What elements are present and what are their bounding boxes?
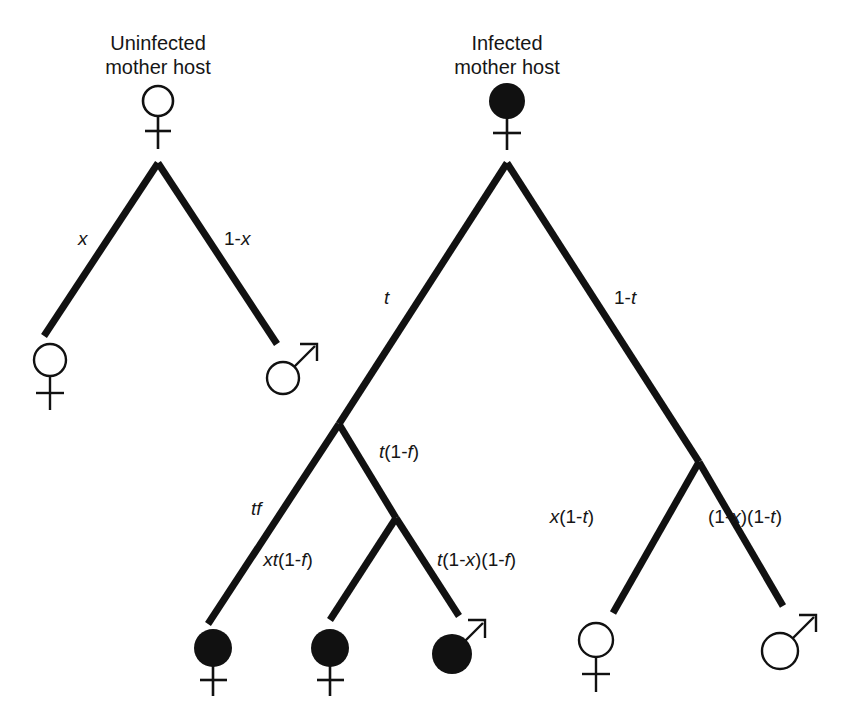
- label-prefix-1: 1-: [224, 228, 241, 249]
- label-seg-1: (1-: [708, 506, 731, 527]
- right-branch-t-one-minus-f: [339, 424, 396, 518]
- label-italic-t: t: [631, 287, 637, 308]
- label-paren-open: (1-: [384, 441, 407, 462]
- left-branch-to-female: [44, 163, 158, 336]
- left-tree-group: Uninfected mother host x 1-x: [34, 32, 317, 410]
- left-root-female-symbol-uninfected: [143, 86, 173, 149]
- figure-canvas: Uninfected mother host x 1-x: [0, 0, 855, 710]
- right-branch-label-one-minus-x-one-minus-t: (1-x)(1-t): [708, 506, 782, 527]
- female-symbol-circle: [579, 623, 613, 657]
- label-seg-2: )(1-: [475, 549, 505, 570]
- right-tree-title-line1: Infected: [471, 32, 542, 54]
- female-symbol-circle: [489, 83, 525, 119]
- right-tree-group: Infected mother host t 1-t tf t(1-f) xt(…: [194, 32, 816, 696]
- label-prefix-1: 1-: [614, 287, 631, 308]
- label-seg-2: ): [588, 506, 594, 527]
- male-symbol-arrow-shaft: [294, 346, 315, 367]
- right-root-female-symbol-infected: [489, 83, 525, 150]
- right-branch-label-t-one-minus-x-one-minus-f: t(1-x)(1-f): [437, 549, 516, 570]
- right-tree-title-line2: mother host: [454, 56, 560, 78]
- left-branch-label-one-minus-x: 1-x: [224, 228, 252, 249]
- label-paren-close: ): [413, 441, 419, 462]
- female-symbol-circle: [311, 629, 349, 667]
- right-branch-label-t: t: [384, 287, 390, 308]
- label-italic-xt: xt: [262, 549, 279, 570]
- female-symbol-circle: [194, 629, 232, 667]
- label-seg-3: ): [776, 506, 782, 527]
- right-branch-label-one-minus-t: 1-t: [614, 287, 637, 308]
- left-branch-label-x: x: [77, 228, 89, 249]
- right-branch-x-one-minus-t: [613, 462, 699, 613]
- right-branch-label-x-one-minus-t: x(1-t): [549, 506, 594, 527]
- right-offspring-female-uninfected: [579, 623, 613, 692]
- label-seg-3: ): [510, 549, 516, 570]
- right-branch-one-minus-x-one-minus-t: [699, 462, 783, 606]
- left-offspring-female-uninfected: [34, 344, 66, 410]
- right-offspring-female-infected-1: [194, 629, 232, 696]
- tree-diagram-svg: Uninfected mother host x 1-x: [0, 0, 855, 710]
- right-offspring-female-infected-2: [311, 629, 349, 696]
- male-symbol-arrow-shaft: [463, 623, 483, 643]
- label-paren-close: ): [306, 549, 312, 570]
- label-seg-1: (1-: [559, 506, 582, 527]
- label-italic-x: x: [240, 228, 252, 249]
- right-branch-label-t-one-minus-f: t(1-f): [379, 441, 419, 462]
- right-branch-tf: [208, 424, 339, 624]
- right-offspring-male-uninfected: [762, 615, 816, 669]
- right-branch-one-minus-t: [507, 163, 699, 462]
- label-seg-2: )(1-: [741, 506, 771, 527]
- right-branch-xt-one-minus-f: [330, 518, 396, 620]
- right-branch-t: [339, 163, 507, 424]
- left-tree-title-line2: mother host: [105, 56, 211, 78]
- right-branch-label-xt-one-minus-f: xt(1-f): [262, 549, 313, 570]
- male-symbol-circle: [762, 633, 798, 669]
- female-symbol-circle: [143, 86, 173, 116]
- left-branch-to-male: [158, 163, 277, 344]
- male-symbol-arrow-shaft: [793, 617, 814, 638]
- left-offspring-male-uninfected: [267, 344, 317, 394]
- label-seg-1: (1-: [442, 549, 465, 570]
- right-branch-label-tf: tf: [251, 498, 263, 519]
- female-symbol-circle: [34, 344, 66, 376]
- label-paren-open: (1-: [278, 549, 301, 570]
- left-tree-title-line1: Uninfected: [110, 32, 206, 54]
- right-offspring-male-infected: [432, 620, 485, 674]
